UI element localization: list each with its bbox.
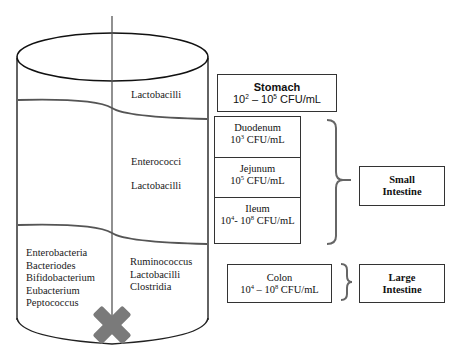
stomach-title: Stomach [254, 81, 300, 93]
small-intestine-label-line2: Intestine [382, 186, 421, 198]
duodenum-cell: Duodenum 103 CFU/mL [215, 117, 300, 157]
large-intestine-left-bacteria-list: Enterobacteria Bacteriodes Bifidobacteri… [26, 247, 95, 310]
bacteria-item: Bifidobacterium [26, 272, 95, 285]
bacteria-item: Clostridia [130, 281, 192, 294]
small-intestine-bacteria-label-2: Lactobacilli [131, 180, 181, 192]
bacteria-item: Bacteriodes [26, 260, 95, 273]
large-intestine-brace [341, 264, 352, 300]
stomach-box: Stomach 102 – 105 CFU/mL [217, 74, 337, 112]
ileum-cell: Ileum 104- 108 CFU/mL [215, 197, 300, 243]
colon-box: Colon 104 – 108 CFU/mL [227, 264, 332, 303]
small-intestine-label-box: Small Intestine [359, 166, 445, 206]
bacteria-item: Enterobacteria [26, 247, 95, 260]
stomach-bacteria-label: Lactobacilli [131, 89, 181, 101]
ileum-cfu: 104- 108 CFU/mL [220, 215, 294, 227]
small-intestine-bacteria-label-1: Enterococci [131, 156, 181, 168]
large-intestine-right-bacteria-list: Ruminococcus Lactobacilli Clostridia [130, 256, 192, 294]
bacteria-item: Eubacterium [26, 285, 95, 298]
bacteria-item: Ruminococcus [130, 256, 192, 269]
bacteria-item: Peptococcus [26, 297, 95, 310]
colon-title: Colon [267, 272, 293, 284]
small-intestine-segments-box: Duodenum 103 CFU/mL Jejunum 105 CFU/mL I… [214, 116, 301, 244]
large-intestine-label-box: Large Intestine [359, 264, 445, 303]
colon-cfu-range: 104 – 108 CFU/mL [240, 284, 319, 296]
ileum-title: Ileum [245, 203, 270, 215]
small-intestine-brace [327, 120, 343, 244]
bacteria-item: Lactobacilli [130, 269, 192, 282]
jejunum-cfu: 105 CFU/mL [230, 175, 284, 187]
stomach-cfu-range: 102 – 105 CFU/mL [233, 93, 321, 105]
small-intestine-label-line1: Small [389, 174, 415, 186]
duodenum-cfu: 103 CFU/mL [230, 134, 284, 146]
jejunum-cell: Jejunum 105 CFU/mL [215, 157, 300, 197]
large-intestine-label-line1: Large [389, 272, 416, 284]
large-intestine-label-line2: Intestine [382, 284, 421, 296]
jejunum-title: Jejunum [240, 163, 276, 175]
